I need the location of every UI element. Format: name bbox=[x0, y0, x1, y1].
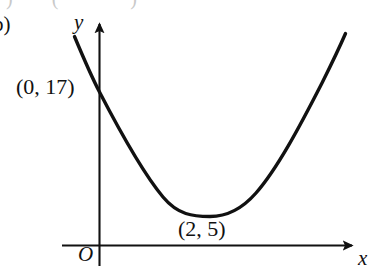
x-axis-label: x bbox=[358, 248, 367, 269]
y-axis-label: y bbox=[74, 12, 83, 33]
vertex-label: (2, 5) bbox=[178, 218, 226, 240]
parabola-figure: ) ( ) b) (0, 17) (2, 5) O y x bbox=[0, 0, 377, 270]
origin-label: O bbox=[78, 244, 93, 265]
item-marker-label: b) bbox=[0, 14, 11, 35]
parabola-curve bbox=[75, 34, 346, 217]
clipped-text-above: ) ( ) bbox=[6, 0, 143, 8]
y-intercept-label: (0, 17) bbox=[16, 76, 75, 98]
